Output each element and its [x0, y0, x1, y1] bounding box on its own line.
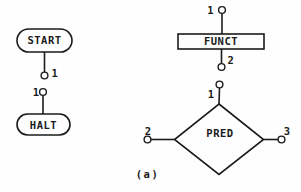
pred-port-in-number: 1: [208, 88, 214, 100]
halt-node: 1 HALT: [17, 86, 70, 136]
funct-port-out-circle: [218, 64, 225, 71]
pred-label: PRED: [206, 127, 233, 139]
funct-port-in-circle: [219, 7, 226, 14]
halt-label: HALT: [30, 119, 57, 131]
funct-port-out-number: 2: [228, 54, 234, 66]
pred-node: 1 PRED 2 3: [144, 81, 290, 174]
start-label: START: [27, 34, 61, 46]
pred-port-right-circle: [278, 136, 285, 143]
start-port-number: 1: [52, 67, 58, 79]
pred-port-in-circle: [216, 81, 223, 88]
start-port-circle: [41, 72, 48, 79]
funct-label: FUNCT: [204, 35, 238, 47]
funct-port-in-number: 1: [207, 4, 213, 16]
flowchart-primitives-figure: START 1 1 HALT 1 FUNCT 2 1: [0, 0, 301, 192]
pred-port-left-circle: [144, 136, 151, 143]
halt-port-number: 1: [33, 86, 39, 98]
funct-node: 1 FUNCT 2: [178, 4, 264, 71]
halt-port-circle: [40, 89, 47, 96]
flowchart-canvas: START 1 1 HALT 1 FUNCT 2 1: [0, 0, 301, 192]
pred-top-connector-line: [219, 88, 220, 104]
pred-port-right-number: 3: [284, 125, 290, 137]
pred-port-left-number: 2: [145, 125, 151, 137]
figure-caption: (a): [136, 168, 159, 180]
start-node: START 1: [17, 29, 72, 79]
pred-diamond: [175, 104, 264, 175]
